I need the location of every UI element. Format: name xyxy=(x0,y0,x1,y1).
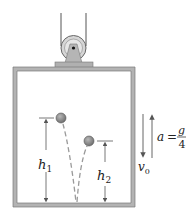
a-symbol: a xyxy=(157,130,164,144)
g-numerator: g xyxy=(178,124,185,137)
h2-label: h2 xyxy=(97,168,111,185)
elevator-diagram: h1 h2 v0 a = g 4 xyxy=(0,0,194,215)
h1-label: h1 xyxy=(38,157,52,174)
pulley xyxy=(61,36,86,64)
v0-label: v0 xyxy=(138,160,150,176)
acceleration-label: a = g 4 xyxy=(157,124,186,151)
ball-initial-position xyxy=(56,113,66,123)
elevator-walls xyxy=(13,67,135,207)
trajectory-rebound xyxy=(77,146,87,202)
ball-trajectory xyxy=(63,124,87,202)
trajectory-fall xyxy=(63,124,76,202)
pulley-axle xyxy=(72,46,75,49)
ball-rebound-position xyxy=(84,136,94,146)
elevator-car xyxy=(13,67,135,207)
4-denominator: 4 xyxy=(179,138,186,151)
equals-sign: = xyxy=(167,130,177,144)
